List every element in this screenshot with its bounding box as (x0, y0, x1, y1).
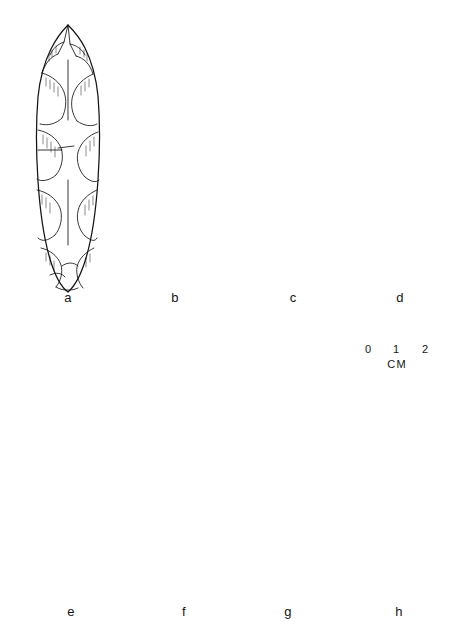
specimen-label-f: f (172, 604, 196, 619)
specimen-label-b: b (163, 290, 187, 305)
scale-tick-label-0: 0 (361, 343, 375, 355)
plate-drawing-canvas: .o { fill:#ffffff; stroke:#141414; strok… (0, 0, 450, 635)
scale-tick-label-1: 1 (389, 343, 403, 355)
artifact-plate: .o { fill:#ffffff; stroke:#141414; strok… (0, 0, 450, 635)
specimen-label-a: a (56, 290, 80, 305)
scale-unit-label: CM (377, 358, 417, 370)
scale-tick-label-2: 2 (418, 343, 432, 355)
specimen-label-h: h (387, 604, 411, 619)
specimen-label-e: e (59, 604, 83, 619)
specimen-label-d: d (388, 290, 412, 305)
specimen-a (37, 25, 100, 292)
specimen-label-c: c (281, 290, 305, 305)
specimen-label-g: g (276, 604, 300, 619)
